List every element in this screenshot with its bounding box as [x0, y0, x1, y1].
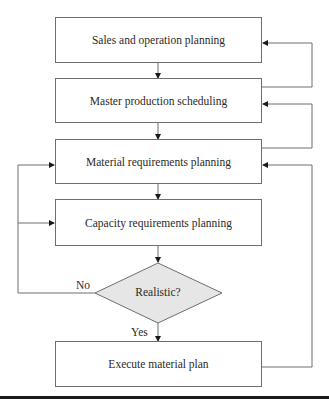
node-execute-material-plan: Execute material plan [55, 341, 262, 387]
node-label: Material requirements planning [86, 155, 231, 169]
node-sales-operation-planning: Sales and operation planning [55, 17, 262, 63]
node-label: Execute material plan [108, 357, 208, 371]
node-label: Sales and operation planning [92, 33, 225, 47]
node-label: Master production scheduling [90, 94, 227, 108]
decision-label: Realistic? [118, 286, 198, 298]
node-capacity-requirements-planning: Capacity requirements planning [55, 199, 262, 246]
bottom-rule [0, 396, 329, 399]
node-master-production-scheduling: Master production scheduling [55, 78, 262, 123]
edge-label-no: No [76, 279, 90, 291]
node-material-requirements-planning: Material requirements planning [55, 139, 262, 184]
edge-label-yes: Yes [131, 326, 148, 338]
node-label: Capacity requirements planning [85, 216, 232, 230]
